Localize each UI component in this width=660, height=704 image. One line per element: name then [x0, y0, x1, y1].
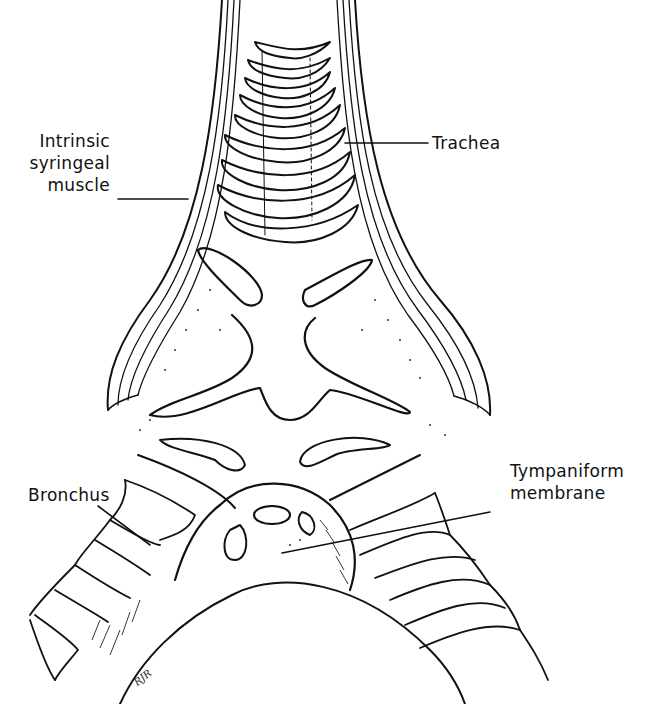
trachea-wall-left — [108, 0, 240, 410]
syrinx-dome — [120, 484, 465, 704]
syrinx-illustration — [0, 0, 660, 704]
label-text: Bronchus — [28, 485, 110, 505]
label-line: Tympaniform — [510, 460, 624, 482]
bronchial-cartilages-upper — [138, 438, 420, 508]
label-trachea: Trachea — [432, 132, 500, 154]
label-line: membrane — [510, 482, 624, 504]
label-bronchus: Bronchus — [28, 484, 110, 506]
label-tympaniform-membrane: Tympaniform membrane — [510, 460, 624, 504]
label-text: Trachea — [432, 133, 500, 153]
trachea-wall-right — [337, 0, 490, 415]
bronchus-right — [350, 493, 548, 680]
label-line: syringeal — [10, 152, 110, 174]
label-line: Intrinsic — [10, 130, 110, 152]
tracheal-rings — [218, 42, 358, 242]
bronchus-left — [30, 480, 195, 680]
label-line: muscle — [10, 174, 110, 196]
stippling — [139, 289, 446, 546]
hatching — [92, 520, 348, 655]
label-intrinsic-syringeal-muscle: Intrinsic syringeal muscle — [10, 130, 110, 196]
pessulus-cartilage — [150, 248, 410, 420]
